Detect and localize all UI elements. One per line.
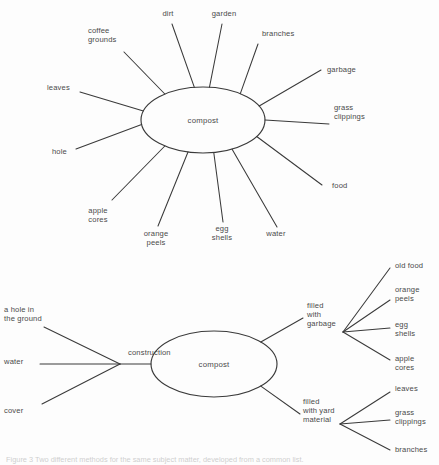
leaf-label-egg-shells-0: eggshells [395,320,415,338]
leaf-line-filled-with-garbage-orange-peels [343,300,390,332]
top-spoke-label-apple-cores: applecores [88,206,107,224]
input-line-cover [42,364,120,404]
top-spoke-label-food: food [332,181,347,190]
spoke-line-branches [240,44,258,94]
leaf-line-filled-with-garbage-old-food [343,268,390,332]
spoke-line-water [232,149,277,227]
leaf-line-filled-with-yard-material-grass-clippings [340,420,390,424]
leaf-label-apple-cores-0: applecores [395,354,414,372]
top-center-node-label: compost [188,116,220,125]
top-spoke-label-grass-clippings: grassclippings [334,103,365,121]
spoke-line-coffee-grounds [124,52,165,94]
figure-top-radial-web: compostcoffeegroundsdirtgardenbranchesga… [47,9,365,247]
top-spoke-label-water: water [265,229,286,238]
spoke-line-dirt [172,24,194,87]
spoke-line-grass-clippings [265,120,329,124]
spoke-line-leaves [80,92,143,111]
top-spoke-label-leaves: leaves [47,83,70,92]
top-spoke-label-orange-peels: orangepeels [144,229,169,247]
compost-diagrams-svg: compostcoffeegroundsdirtgardenbranchesga… [0,0,439,465]
page-canvas: compostcoffeegroundsdirtgardenbranchesga… [0,0,439,465]
spoke-line-orange-peels [158,152,188,226]
top-spoke-label-dirt: dirt [162,9,174,18]
leaf-label-leaves-1: leaves [395,384,418,393]
leaf-label-orange-peels-0: orangepeels [395,285,420,303]
leaf-line-filled-with-yard-material-branches [340,424,390,450]
leaf-line-filled-with-garbage-apple-cores [343,332,390,360]
input-label-water: water [3,357,24,366]
top-spoke-label-garden: garden [212,9,237,18]
bottom-center-node-label: compost [199,360,231,369]
spoke-line-egg-shells [214,152,223,222]
input-label-cover: cover [4,406,24,415]
top-spoke-label-branches: branches [262,29,294,38]
top-spoke-label-hole: hole [52,147,67,156]
leaf-line-filled-with-yard-material-leaves [340,392,390,424]
spoke-line-hole [76,125,142,149]
figure-caption: Figure 3 Two different methods for the s… [6,455,436,464]
group-label-filled-with-yard-material: filledwith yardmaterial [302,397,335,424]
top-spoke-label-egg-shells: eggshells [212,224,232,242]
top-spoke-label-garbage: garbage [327,65,356,74]
spoke-line-apple-cores [112,146,165,200]
spoke-line-garbage [259,70,321,106]
leaf-label-grass-clippings-1: grassclippings [395,408,426,426]
input-label-a-hole-in-the-ground: a hole inthe ground [4,305,42,323]
figure-bottom-fishbone: compostconstructiona hole inthe groundwa… [3,261,427,454]
input-line-a-hole-in-the-ground [44,327,120,364]
group-label-filled-with-garbage: filledwithgarbage [306,301,336,328]
leaf-label-branches-1: branches [395,445,427,454]
group-stem-filled-with-yard-material [261,386,300,414]
spoke-line-garden [209,24,222,87]
group-stem-filled-with-garbage [261,318,303,342]
construction-branch-label: construction [128,348,171,357]
top-spoke-label-coffee-grounds: coffeegrounds [88,26,117,44]
leaf-line-filled-with-garbage-egg-shells [343,328,390,332]
spoke-line-food [257,137,322,186]
leaf-label-old-food-0: old food [395,261,423,270]
